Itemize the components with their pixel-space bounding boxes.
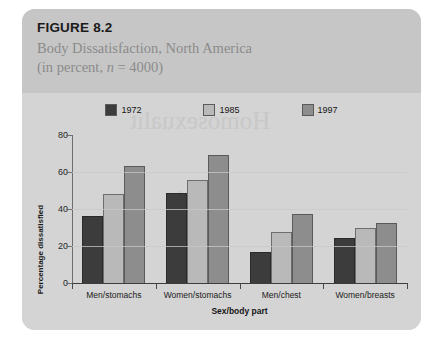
bar-1985-men-chest bbox=[271, 232, 292, 283]
y-tick-mark-0 bbox=[66, 283, 72, 284]
figure-header: FIGURE 8.2 Body Dissatisfaction, North A… bbox=[22, 9, 421, 93]
x-tick-mark-2 bbox=[240, 283, 241, 289]
y-axis-tick-labels: 020406080 bbox=[48, 93, 68, 330]
bar-1985-women-breasts bbox=[355, 228, 376, 284]
x-tick-mark-0 bbox=[72, 283, 73, 289]
figure-title-suffix: = 4000) bbox=[114, 59, 163, 75]
bar-1972-men-chest bbox=[250, 252, 271, 283]
bar-1997-men-chest bbox=[292, 214, 313, 283]
x-category-label-men-stomachs: Men/stomachs bbox=[72, 290, 156, 304]
y-axis-title: Percentage dissatisfied bbox=[36, 185, 45, 315]
plot-area bbox=[72, 135, 407, 283]
x-tick-mark-1 bbox=[156, 283, 157, 289]
x-tick-mark-4 bbox=[407, 283, 408, 289]
bar-1972-women-breasts bbox=[334, 238, 355, 283]
x-category-label-women-stomachs: Women/stomachs bbox=[156, 290, 240, 304]
bar-1985-men-stomachs bbox=[103, 194, 124, 283]
bar-1997-women-breasts bbox=[376, 223, 397, 283]
figure-title-line-1: Body Dissatisfaction, North America bbox=[37, 39, 407, 58]
bar-1972-women-stomachs bbox=[166, 193, 187, 283]
x-tick-mark-3 bbox=[323, 283, 324, 289]
gridline-40 bbox=[72, 209, 407, 210]
x-axis-tick-marks bbox=[72, 283, 407, 289]
figure-title-line-2: (in percent, n = 4000) bbox=[37, 58, 407, 77]
bar-1997-women-stomachs bbox=[208, 155, 229, 283]
figure-title-n-italic: n bbox=[107, 59, 114, 75]
figure-panel: FIGURE 8.2 Body Dissatisfaction, North A… bbox=[22, 9, 421, 330]
gridline-20 bbox=[72, 246, 407, 247]
bar-1985-women-stomachs bbox=[187, 180, 208, 283]
x-category-label-men-chest: Men/chest bbox=[240, 290, 324, 304]
figure-title-prefix: (in percent, bbox=[37, 59, 107, 75]
bar-1972-men-stomachs bbox=[82, 216, 103, 283]
x-axis-title: Sex/body part bbox=[72, 306, 407, 316]
x-category-label-women-breasts: Women/breasts bbox=[323, 290, 407, 304]
bar-1997-men-stomachs bbox=[124, 166, 145, 283]
y-tick-mark-40 bbox=[66, 209, 72, 210]
x-axis-category-labels: Men/stomachsWomen/stomachsMen/chestWomen… bbox=[72, 290, 407, 304]
figure-title: Body Dissatisfaction, North America (in … bbox=[37, 39, 407, 77]
y-tick-mark-60 bbox=[66, 172, 72, 173]
y-tick-mark-80 bbox=[66, 135, 72, 136]
gridline-60 bbox=[72, 172, 407, 173]
chart-body: Homosexualit A 197219851997 Percentage d… bbox=[22, 93, 421, 330]
plot-wrapper: Percentage dissatisfied 020406080 Men/st… bbox=[22, 93, 421, 330]
figure-number: FIGURE 8.2 bbox=[37, 20, 113, 35]
y-tick-mark-20 bbox=[66, 246, 72, 247]
